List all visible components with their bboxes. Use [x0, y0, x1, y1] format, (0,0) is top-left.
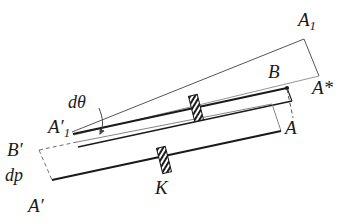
lower-bar-left-edge-dashed: [39, 150, 52, 180]
lower-bar-top-edge: [77, 104, 272, 142]
label-A-star: A*: [312, 78, 333, 97]
dashed-connector-B-A: [287, 89, 293, 118]
hatch-marker-lower: [156, 146, 171, 173]
label-A-prime: A′: [28, 196, 44, 215]
label-A1-prime: A′1: [48, 117, 70, 140]
figure-canvas: [0, 0, 343, 224]
rotated-bar-top-edge: [72, 39, 304, 132]
lower-bar-right-edge: [272, 104, 281, 131]
label-dp: dp: [5, 166, 23, 184]
geometry-figure: A1 B A* A dθ A′1 B′ dp A′ K: [0, 0, 343, 224]
upper-bar: [73, 86, 292, 147]
label-B-prime: B′: [7, 140, 23, 159]
label-A1: A1: [298, 10, 316, 33]
lower-bar-top-edge-dashed: [39, 142, 77, 150]
label-A: A: [285, 118, 297, 137]
upper-bar-top-edge: [73, 88, 287, 134]
label-B: B: [268, 62, 280, 81]
rotated-bar-right-edge: [304, 39, 319, 76]
label-d-theta: dθ: [68, 93, 86, 111]
label-K: K: [155, 178, 168, 197]
